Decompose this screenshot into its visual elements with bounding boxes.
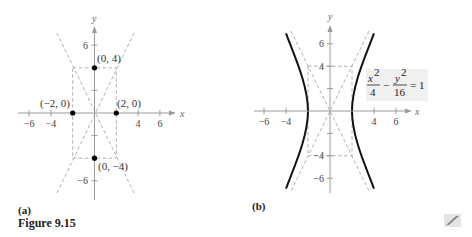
point-0-neg4 — [92, 156, 97, 161]
x-tick-label: −6 — [24, 118, 35, 129]
x-tick-label: 6 — [394, 116, 399, 127]
point-label: (0, −4) — [98, 160, 128, 173]
eq-minus: − — [383, 79, 389, 91]
figure-canvas: x y −6 −4 4 6 6 −6 (0, 4) — [0, 0, 472, 237]
panel-a-graph: x y −6 −4 4 6 6 −6 (0, 4) — [18, 13, 185, 230]
y-tick-label: 6 — [83, 40, 88, 51]
point-label: (0, 4) — [97, 52, 121, 65]
eq-term2-num: y — [394, 72, 400, 84]
x-axis-arrow-icon — [169, 111, 176, 116]
eq-term1-exp: 2 — [374, 66, 380, 78]
y-tick-label: −4 — [313, 150, 324, 161]
y-axis-arrow-icon — [328, 25, 333, 32]
point-label: (−2, 0) — [40, 97, 70, 110]
panel-b-graph: x y −6 −4 4 6 6 4 −4 −6 x 2 — [252, 11, 428, 213]
eq-rhs: = 1 — [410, 79, 424, 91]
y-tick-label: −6 — [77, 175, 88, 186]
y-tick-label: −6 — [313, 173, 324, 184]
y-tick-label: 6 — [319, 38, 324, 49]
eq-term1-den: 4 — [370, 86, 376, 98]
x-tick-label: 6 — [157, 118, 162, 129]
y-tick-label: 4 — [319, 61, 324, 72]
x-axis-arrow-icon — [405, 109, 412, 114]
eq-term2-exp: 2 — [401, 66, 407, 78]
x-axis-label: x — [179, 108, 185, 119]
eq-term2-den: 16 — [394, 86, 406, 98]
point-2-0 — [114, 110, 119, 115]
x-tick-label: −6 — [259, 116, 270, 127]
point-0-4 — [92, 65, 97, 70]
eq-term1-num: x — [367, 72, 373, 84]
x-tick-label: 4 — [136, 118, 141, 129]
x-axis-label: x — [414, 106, 420, 117]
x-tick-label: −4 — [46, 118, 57, 129]
x-tick-label: −4 — [281, 116, 292, 127]
equation-annotation: x 2 4 − y 2 16 = 1 — [366, 66, 428, 101]
y-axis-label: y — [327, 11, 333, 22]
y-axis-arrow-icon — [92, 26, 97, 33]
point-label: (2, 0) — [117, 97, 141, 110]
edit-icon[interactable] — [444, 214, 461, 227]
figure-caption: Figure 9.15 — [18, 216, 76, 230]
panel-b-label: (b) — [252, 200, 266, 213]
y-axis-label: y — [91, 13, 97, 24]
x-tick-label: 4 — [372, 116, 377, 127]
point-neg2-0 — [70, 110, 75, 115]
